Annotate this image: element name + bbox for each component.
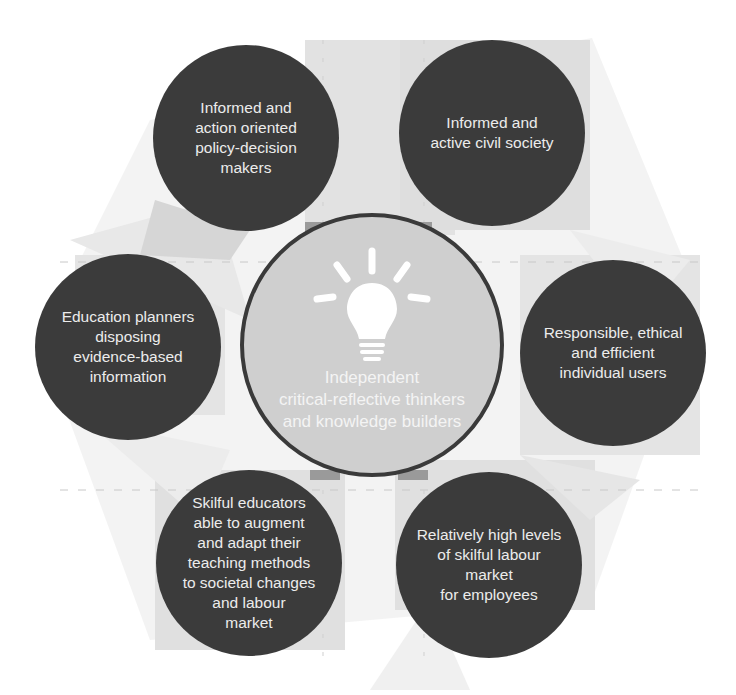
- node-label: Education planners disposing evidence-ba…: [62, 307, 195, 387]
- node-label: Informed and active civil society: [430, 113, 553, 153]
- node-label: Responsible, ethical and efficient indiv…: [544, 323, 683, 383]
- node-label: Skilful educators able to augment and ad…: [183, 493, 316, 633]
- diagram-canvas: Independent critical-reflective thinkers…: [0, 0, 736, 695]
- node-label: Informed and action oriented policy-deci…: [195, 98, 297, 178]
- node-education-planners: Education planners disposing evidence-ba…: [35, 254, 221, 440]
- node-civil-society: Informed and active civil society: [399, 40, 585, 226]
- node-labour-market: Relatively high levels of skilful labour…: [396, 472, 582, 658]
- center-title: Independent critical-reflective thinkers…: [244, 367, 500, 433]
- node-policy-makers: Informed and action oriented policy-deci…: [153, 45, 339, 231]
- lightbulb-icon: [307, 247, 437, 365]
- node-educators: Skilful educators able to augment and ad…: [156, 470, 342, 656]
- center-hub: Independent critical-reflective thinkers…: [240, 213, 504, 477]
- node-individual-users: Responsible, ethical and efficient indiv…: [520, 260, 706, 446]
- node-label: Relatively high levels of skilful labour…: [414, 525, 564, 605]
